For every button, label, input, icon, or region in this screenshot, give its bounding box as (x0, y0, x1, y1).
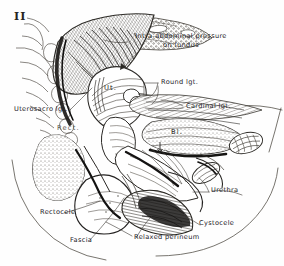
label-uterosacral-ligament: Uterosacro lgt. (14, 105, 68, 114)
label-intra-abdominal-pressure: Intra-abdominal pressure on fundus (131, 32, 231, 49)
label-cardinal-ligament: Cardinal lgt. (186, 102, 231, 111)
organ-mark-uterus: Ut. (104, 84, 117, 92)
anatomical-plate: II Intra-abdominal pressure on fundus Ro… (0, 0, 284, 266)
label-urethra: Urethra (211, 186, 238, 195)
label-relaxed-perineum: Relaxed perineum (134, 233, 199, 242)
label-intra-abdominal-pressure-line2: on fundus (163, 41, 199, 49)
label-round-ligament: Round lgt. (161, 78, 198, 87)
label-fascia: Fascia (70, 236, 92, 245)
label-intra-abdominal-pressure-line1: Intra-abdominal pressure (135, 32, 227, 40)
label-cystocele: Cystocele (199, 219, 234, 228)
figure-number: II (14, 10, 26, 23)
label-rectocele: Rectocele (40, 208, 75, 217)
organ-mark-bladder: Bl. (171, 128, 183, 136)
organ-mark-rectum: Rect. (57, 124, 80, 132)
